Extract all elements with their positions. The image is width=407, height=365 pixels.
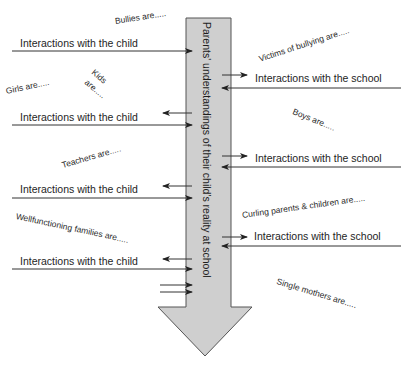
school-interaction-label-2: Interactions with the school [255,152,382,164]
child-interaction-label-3: Interactions with the child [20,183,138,195]
school-interaction-label-1: Interactions with the school [255,72,382,84]
child-interaction-label-4: Interactions with the child [20,255,138,267]
school-interaction-label-3: Interactions with the school [254,230,381,242]
child-interaction-label-1: Interactions with the child [20,37,138,49]
child-interaction-label-2: Interactions with the child [20,111,138,123]
diagram-canvas: Parents' understandings of their child's… [0,0,407,365]
central-arrow-label: Parents' understandings of their child's… [199,22,215,292]
